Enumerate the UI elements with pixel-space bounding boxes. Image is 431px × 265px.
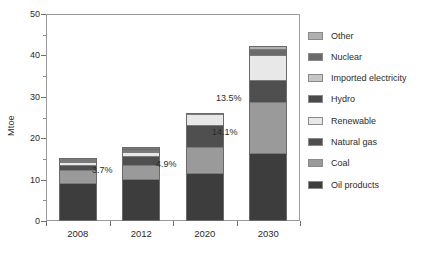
x-tick [46,221,47,226]
legend-item-label: Oil products [331,180,379,190]
x-tick [110,221,111,226]
legend-item-label: Imported electricity [331,73,407,83]
x-tick-label: 2008 [54,228,102,239]
legend-item[interactable]: Natural gas [308,136,430,147]
bar-segment [249,49,287,56]
bar-segment [186,173,224,221]
legend-item-label: Renewable [331,116,376,126]
percent-annotation: 13.5% [216,93,242,103]
y-tick-label: 10 [20,175,40,185]
legend-item[interactable]: Imported electricity [308,73,430,84]
percent-annotation: 14.1% [212,127,238,137]
y-tick-label: 40 [20,50,40,60]
legend-swatch-icon [308,74,323,82]
x-tick-label: 2020 [181,228,229,239]
bar-segment [186,114,224,125]
legend-item-label: Coal [331,158,350,168]
bar-segment [249,102,287,153]
x-tick-label: 2012 [117,228,165,239]
bar-segment [249,55,287,79]
x-tick [173,221,174,226]
legend-swatch-icon [308,138,323,146]
legend-item[interactable]: Nuclear [308,51,430,62]
bar-segment [122,165,160,179]
legend-item[interactable]: Other [308,30,430,41]
legend-swatch-icon [308,181,323,189]
bars-layer [46,14,300,221]
legend-item-label: Natural gas [331,137,377,147]
bar-segment [249,153,287,221]
bar-segment [186,147,224,173]
legend-item-label: Nuclear [331,52,362,62]
percent-annotation: 4.9% [156,159,177,169]
bar-segment [122,156,160,165]
legend-swatch-icon [308,117,323,125]
y-tick-label: 50 [20,9,40,19]
legend-item-label: Hydro [331,94,355,104]
legend-swatch-icon [308,32,323,40]
y-tick-label: 0 [20,216,40,226]
chart-legend: OtherNuclearImported electricityHydroRen… [308,30,430,200]
x-tick [237,221,238,226]
bar-segment [122,179,160,221]
y-axis-title: Mtoe [6,96,20,156]
legend-swatch-icon [308,53,323,61]
legend-swatch-icon [308,159,323,167]
x-tick [300,221,301,226]
legend-item[interactable]: Renewable [308,115,430,126]
bar-2012 [122,147,160,221]
y-tick-label: 20 [20,133,40,143]
stacked-bar-chart: Mtoe 01020304050 2008201220202030 3.7%4.… [0,0,431,265]
bar-2030 [249,46,287,221]
bar-segment [249,80,287,102]
y-tick-label: 30 [20,92,40,102]
legend-item[interactable]: Hydro [308,94,430,105]
x-tick-label: 2030 [244,228,292,239]
legend-item[interactable]: Oil products [308,179,430,190]
legend-item[interactable]: Coal [308,158,430,169]
percent-annotation: 3.7% [92,165,113,175]
legend-swatch-icon [308,95,323,103]
bar-segment [59,183,97,221]
legend-item-label: Other [331,31,354,41]
